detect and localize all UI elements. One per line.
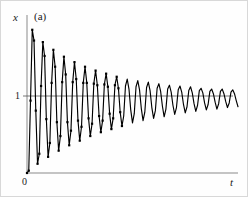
data-point-marker: [102, 120, 104, 122]
data-point-marker: [54, 66, 56, 68]
data-point-marker: [121, 125, 123, 127]
data-point-marker: [52, 49, 54, 51]
data-point-marker: [45, 118, 47, 120]
data-point-marker: [84, 66, 86, 68]
data-point-marker: [112, 117, 114, 119]
data-point-marker: [86, 82, 88, 84]
data-point-marker: [109, 113, 111, 115]
data-point-marker: [29, 100, 31, 102]
data-point-marker: [28, 170, 30, 172]
data-point-marker: [96, 84, 98, 86]
data-point-marker: [98, 115, 100, 117]
damped-oscillation-plot: [1, 1, 248, 197]
data-point-marker: [66, 121, 68, 123]
data-point-marker: [63, 56, 65, 58]
data-point-marker: [94, 69, 96, 71]
data-point-marker: [91, 123, 93, 125]
data-point-marker: [110, 128, 112, 130]
data-point-marker: [100, 131, 102, 133]
data-point-marker: [59, 135, 61, 137]
data-point-marker: [116, 76, 118, 78]
data-point-marker: [56, 121, 58, 123]
data-point-marker: [119, 111, 121, 113]
data-point-marker: [42, 41, 44, 43]
data-point-marker: [77, 120, 79, 122]
data-point-marker: [103, 83, 105, 85]
data-point-marker: [117, 87, 119, 89]
data-point-marker: [87, 117, 89, 119]
x-axis-label: t: [230, 177, 233, 188]
data-point-marker: [68, 144, 70, 146]
data-point-marker: [31, 29, 33, 31]
data-point-marker: [49, 142, 51, 144]
data-point-marker: [40, 85, 42, 87]
data-point-marker: [26, 172, 28, 174]
data-point-marker: [80, 126, 82, 128]
data-point-marker: [93, 83, 95, 85]
origin-tick-label: 0: [22, 177, 27, 187]
data-point-marker: [75, 78, 77, 80]
data-point-marker: [36, 163, 38, 165]
y-axis-label: x: [13, 12, 18, 23]
data-point-marker: [65, 73, 67, 75]
data-point-marker: [82, 82, 84, 84]
data-point-marker: [107, 86, 109, 88]
panel-label: (a): [34, 11, 46, 22]
data-point-marker: [70, 130, 72, 132]
data-point-marker: [72, 81, 74, 83]
data-point-marker: [79, 140, 81, 142]
data-point-marker: [89, 135, 91, 137]
data-point-marker: [61, 81, 63, 83]
y-tick-label-one: 1: [15, 91, 20, 101]
data-point-marker: [73, 61, 75, 63]
data-point-marker: [47, 156, 49, 158]
data-point-marker: [105, 73, 107, 75]
data-point-marker: [38, 153, 40, 155]
data-point-marker: [58, 150, 60, 152]
data-point-marker: [43, 55, 45, 57]
data-point-marker: [114, 84, 116, 86]
data-point-marker: [35, 110, 37, 112]
figure-panel-a: x t (a) 1 0: [0, 0, 248, 197]
data-point-marker: [51, 82, 53, 84]
data-point-marker: [33, 39, 35, 41]
